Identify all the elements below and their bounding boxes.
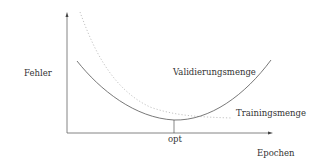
opt-label: opt	[168, 134, 183, 144]
validation-label: Validierungsmenge	[172, 67, 256, 77]
training-curve	[80, 12, 232, 118]
training-label: Trainingsmenge	[236, 108, 306, 118]
x-axis-arrow-icon	[268, 132, 273, 135]
chart: Fehler Validierungsmenge Trainingsmenge …	[0, 0, 317, 164]
y-axis-label: Fehler	[24, 68, 53, 78]
y-axis-arrow-icon	[66, 12, 69, 17]
x-axis-label: Epochen	[257, 148, 295, 158]
